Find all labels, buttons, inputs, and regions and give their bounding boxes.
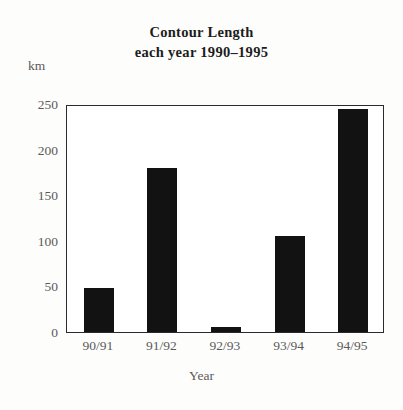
x-tick-label: 94/95	[337, 338, 368, 354]
bar-91-92	[147, 168, 177, 332]
y-tick-label: 100	[2, 234, 58, 250]
x-tick-label: 92/93	[210, 338, 241, 354]
chart-title: Contour Length each year 1990–1995	[0, 22, 403, 62]
bar-93-94	[275, 236, 305, 332]
plot-area	[66, 105, 384, 333]
x-tick-label: 93/94	[273, 338, 304, 354]
chart-title-line-2: each year 1990–1995	[0, 42, 403, 62]
bar-94-95	[338, 109, 368, 332]
x-axis-tick-labels: 90/9191/9292/9393/9494/95	[66, 338, 384, 360]
y-tick-label: 200	[2, 143, 58, 159]
x-tick-label: 91/92	[146, 338, 177, 354]
y-axis-tick-labels: 250200150100500	[0, 0, 58, 410]
x-tick-label: 90/91	[82, 338, 113, 354]
y-tick-label: 150	[2, 188, 58, 204]
bar-chart-figure: Contour Length each year 1990–1995 km 25…	[0, 0, 403, 410]
chart-title-line-1: Contour Length	[0, 22, 403, 42]
y-tick-label: 0	[2, 325, 58, 341]
x-axis-title: Year	[0, 368, 403, 384]
bars-layer	[67, 106, 383, 332]
bar-92-93	[211, 327, 241, 332]
y-tick-label: 50	[2, 279, 58, 295]
y-tick-label: 250	[2, 97, 58, 113]
bar-90-91	[84, 288, 114, 332]
